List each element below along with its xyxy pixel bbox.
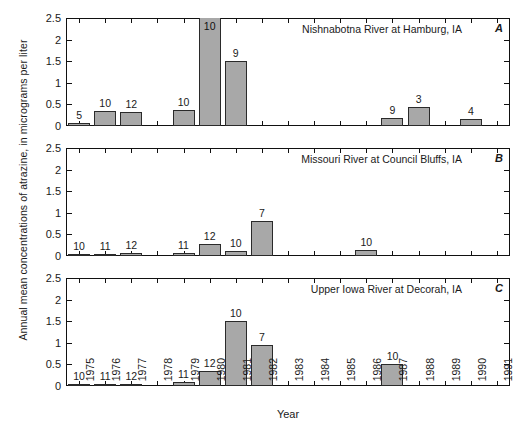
x-tick-mark [445, 121, 446, 126]
bar [173, 110, 195, 126]
x-tick-label: 1976 [110, 358, 122, 381]
x-tick-label: 1982 [267, 358, 279, 381]
y-tick-mark [66, 40, 72, 41]
panel-letter: B [495, 152, 503, 164]
x-tick-mark [157, 18, 158, 23]
y-tick-mark [504, 234, 510, 235]
x-tick-mark [471, 251, 472, 256]
x-tick-mark [445, 251, 446, 256]
y-tick-mark [66, 343, 72, 344]
x-tick-mark [210, 278, 211, 283]
bar [355, 250, 377, 256]
x-tick-mark [419, 251, 420, 256]
y-tick-label: 0 [31, 120, 61, 132]
bar [225, 251, 247, 256]
y-tick-label: 0.5 [31, 358, 61, 370]
bar-sample-count-label: 9 [390, 104, 396, 116]
x-tick-label: 1981 [241, 358, 253, 381]
y-tick-mark [66, 213, 72, 214]
x-tick-mark [497, 251, 498, 256]
y-tick-mark [66, 170, 72, 171]
bar-sample-count-label: 5 [76, 109, 82, 121]
y-tick-mark [504, 191, 510, 192]
y-tick-label: 1 [31, 337, 61, 349]
y-tick-mark [504, 83, 510, 84]
y-tick-label: 0 [31, 380, 61, 392]
x-tick-mark [340, 251, 341, 256]
x-tick-label: 1980 [215, 358, 227, 381]
y-tick-mark [66, 300, 72, 301]
y-tick-label: 1 [31, 77, 61, 89]
x-tick-mark [392, 251, 393, 256]
x-tick-mark [184, 18, 185, 23]
y-tick-label: 1.5 [31, 185, 61, 197]
bar [251, 221, 273, 256]
bar-sample-count-label: 10 [230, 307, 242, 319]
x-tick-mark [288, 251, 289, 256]
x-tick-label: 1979 [189, 358, 201, 381]
y-tick-mark [66, 83, 72, 84]
x-tick-label: 1987 [397, 358, 409, 381]
bar [68, 254, 90, 257]
bar-sample-count-label: 12 [125, 239, 137, 251]
x-tick-mark [79, 278, 80, 283]
x-tick-mark [105, 278, 106, 283]
bar [120, 253, 142, 256]
y-tick-mark [66, 234, 72, 235]
x-tick-label: 1983 [293, 358, 305, 381]
y-tick-mark [504, 104, 510, 105]
bar [120, 112, 142, 126]
x-tick-mark [184, 148, 185, 153]
x-tick-mark [471, 278, 472, 283]
x-axis-title: Year [66, 408, 510, 420]
bar [408, 107, 430, 126]
y-tick-label: 1.5 [31, 55, 61, 67]
x-tick-label: 1984 [319, 358, 331, 381]
bar-sample-count-label: 10 [73, 240, 85, 252]
bar-sample-count-label: 7 [259, 207, 265, 219]
bar [460, 119, 482, 126]
y-tick-label: 2 [31, 294, 61, 306]
x-tick-mark [184, 278, 185, 283]
bar-sample-count-label: 10 [99, 97, 111, 109]
x-axis-tick-labels: 1975197619771978197919801981198219831984… [66, 358, 510, 404]
x-tick-mark [105, 18, 106, 23]
bar [68, 123, 90, 126]
y-axis-title: Annual mean concentrations of atrazine, … [17, 0, 29, 385]
x-tick-mark [262, 18, 263, 23]
bar-sample-count-label: 7 [259, 331, 265, 343]
panel-letter: A [495, 22, 503, 34]
x-tick-mark [288, 148, 289, 153]
y-tick-mark [504, 61, 510, 62]
atrazine-bar-chart-figure: Annual mean concentrations of atrazine, … [0, 0, 522, 434]
x-tick-mark [471, 18, 472, 23]
y-tick-label: 2.5 [31, 12, 61, 24]
x-tick-mark [497, 121, 498, 126]
x-tick-label: 1985 [345, 358, 357, 381]
bar-sample-count-label: 4 [468, 105, 474, 117]
bar-sample-count-label: 12 [204, 230, 216, 242]
y-tick-mark [504, 343, 510, 344]
panel-b: 00.511.522.5101112111210710Missouri Rive… [66, 148, 510, 256]
panel-letter: C [495, 282, 503, 294]
bar [94, 254, 116, 257]
y-tick-label: 1.5 [31, 315, 61, 327]
y-tick-label: 2.5 [31, 272, 61, 284]
bar-sample-count-label: 11 [178, 239, 189, 251]
y-tick-mark [504, 213, 510, 214]
x-tick-mark [79, 18, 80, 23]
bar-sample-count-label: 10 [178, 96, 190, 108]
y-tick-mark [504, 300, 510, 301]
x-tick-mark [157, 251, 158, 256]
y-tick-label: 0 [31, 250, 61, 262]
y-tick-mark [504, 170, 510, 171]
x-tick-mark [366, 121, 367, 126]
y-tick-label: 2.5 [31, 142, 61, 154]
x-tick-label: 1991 [502, 358, 514, 381]
x-tick-mark [131, 148, 132, 153]
bar-sample-count-label: 10 [230, 237, 242, 249]
y-tick-label: 0.5 [31, 228, 61, 240]
y-tick-mark [66, 321, 72, 322]
x-tick-mark [340, 121, 341, 126]
x-tick-label: 1977 [136, 358, 148, 381]
